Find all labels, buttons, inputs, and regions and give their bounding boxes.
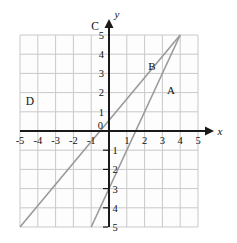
x-tick-label: -2 <box>69 135 78 146</box>
x-tick-label: -5 <box>16 135 25 146</box>
y-tick-label: 5 <box>112 222 117 233</box>
graph-svg: x y 0 -5 -4 -3 -2 -1 1 2 3 4 5 5 4 3 2 1… <box>0 0 237 243</box>
line-a-label: A <box>167 84 175 96</box>
label-c: C <box>91 20 99 32</box>
label-d: D <box>26 95 34 107</box>
x-tick-label: 3 <box>160 135 165 146</box>
x-tick-label: 4 <box>178 135 184 146</box>
y-tick-label: 5 <box>99 30 104 41</box>
x-axis-arrow <box>205 127 214 136</box>
origin-label: 0 <box>98 120 103 131</box>
line-b-label: B <box>148 60 155 72</box>
coordinate-plane-figure: x y 0 -5 -4 -3 -2 -1 1 2 3 4 5 5 4 3 2 1… <box>0 0 237 243</box>
y-tick-label: 4 <box>112 203 118 214</box>
x-tick-label: 1 <box>124 135 129 146</box>
y-tick-label: 3 <box>99 68 104 79</box>
y-axis-label: y <box>114 8 120 20</box>
y-tick-label: 3 <box>112 184 117 195</box>
x-tick-label: -3 <box>51 135 60 146</box>
x-axis-label: x <box>217 125 223 137</box>
x-tick-label: -1 <box>87 135 96 146</box>
x-tick-label: -4 <box>33 135 42 146</box>
y-tick-label: 4 <box>99 49 105 60</box>
y-axis-arrow <box>105 19 114 28</box>
y-tick-label: 1 <box>99 107 104 118</box>
y-tick-label: 1 <box>112 145 117 156</box>
x-tick-label: 2 <box>142 135 147 146</box>
y-tick-label: 2 <box>99 87 104 98</box>
x-tick-label: 5 <box>195 135 200 146</box>
y-tick-label: 2 <box>112 164 117 175</box>
